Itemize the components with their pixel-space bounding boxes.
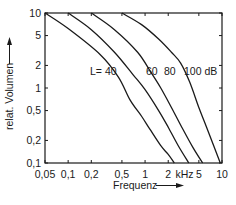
x-tick-label: 2	[165, 168, 171, 180]
x-tick-label: 0,1	[61, 168, 76, 180]
curve-label-60: 60	[146, 65, 158, 77]
x-axis-arrow-icon	[156, 183, 184, 188]
y-tick-label: 1	[35, 82, 41, 94]
curve-label-40: L= 40	[90, 65, 117, 77]
x-tick-label: 0,05	[35, 168, 56, 180]
plot-frame	[45, 13, 222, 163]
loudness-volume-chart: 0,050,10,20,512510kHz 0,10,20,512510 L= …	[0, 0, 236, 205]
y-tick-label: 10	[29, 7, 41, 19]
y-tick-label: 0,2	[26, 134, 41, 146]
y-tick-label: 5	[35, 29, 41, 41]
curve-label-100: 100 dB	[184, 65, 217, 77]
y-axis-arrow-icon	[7, 37, 12, 64]
y-tick-label: 2	[35, 59, 41, 71]
x-tick-label: 5	[196, 168, 202, 180]
x-tick-label: 0,2	[84, 168, 99, 180]
y-axis-title: relat. Volumen	[3, 63, 15, 130]
curve-80db	[91, 13, 202, 163]
x-axis-title: Frequenz	[113, 179, 157, 191]
curve-100db	[122, 13, 220, 163]
y-tick-label: 0,1	[26, 157, 41, 169]
curve-60db	[68, 13, 189, 163]
x-unit-label: kHz	[175, 168, 193, 180]
x-axis-ticks: 0,050,10,20,512510kHz	[35, 13, 228, 180]
curves	[45, 13, 220, 163]
curve-label-80: 80	[164, 65, 176, 77]
x-tick-label: 10	[216, 168, 228, 180]
y-tick-label: 0,5	[26, 104, 41, 116]
